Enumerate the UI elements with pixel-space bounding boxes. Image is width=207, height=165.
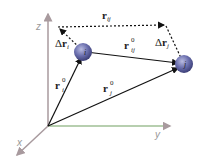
atom-j: j: [175, 55, 193, 73]
label-r-j0-base: r: [103, 82, 108, 94]
coordinate-axes: z y x: [16, 14, 170, 155]
position-vectors: [48, 52, 178, 126]
label-r-ij0-sup: 0: [131, 36, 135, 44]
label-r-i0-base: r: [55, 79, 60, 91]
vector-r-ij: [58, 25, 164, 27]
label-delta-r-j: Δrj: [155, 36, 169, 50]
y-axis-label: y: [154, 129, 161, 140]
vector-labels: rij Δri Δrj r 0 ij r 0 i r 0 j: [55, 9, 169, 97]
label-r-j0-sub: j: [109, 89, 112, 97]
label-r-i0-sup: 0: [62, 76, 66, 84]
label-r-ij0-base: r: [124, 39, 129, 51]
vector-r-j0: [48, 68, 178, 126]
vector-r-i0: [48, 58, 81, 126]
atom-i-label: i: [84, 48, 86, 57]
label-r-ij: rij: [102, 9, 111, 23]
label-r-ij0-sub: ij: [131, 46, 135, 54]
z-axis-label: z: [35, 21, 41, 32]
label-r-i0-sub: i: [62, 86, 64, 94]
label-r-j0-sup: 0: [110, 79, 114, 87]
x-axis-label: x: [16, 137, 23, 148]
atom-i: i: [74, 43, 92, 61]
atom-displacement-diagram: z y x i j rij Δri Δrj r: [0, 0, 207, 165]
label-delta-r-i: Δri: [55, 37, 69, 51]
